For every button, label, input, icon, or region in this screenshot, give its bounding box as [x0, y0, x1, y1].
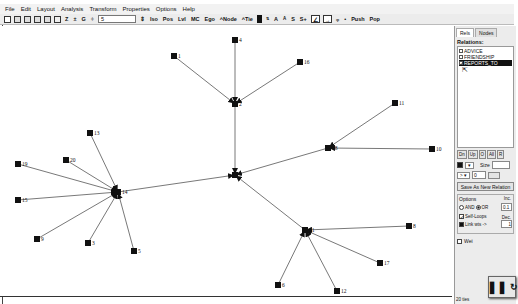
save-as-icon[interactable] — [34, 16, 41, 23]
lvl-button[interactable]: Lvl — [177, 15, 187, 23]
pause-icon[interactable]: ❚❚ — [487, 280, 507, 294]
dec-input[interactable]: 1 — [501, 220, 512, 228]
menu-help[interactable]: Help — [183, 6, 195, 12]
graph-edge — [328, 148, 432, 149]
menu-properties[interactable]: Properties — [123, 6, 150, 12]
tab-nodes[interactable]: Nodes — [475, 28, 497, 37]
inc-label: Inc. — [504, 196, 511, 201]
graph-node[interactable] — [406, 223, 412, 229]
o-button[interactable]: O — [479, 150, 487, 159]
iso-button[interactable]: Iso — [149, 15, 159, 23]
graph-node[interactable] — [302, 227, 308, 233]
pop-button[interactable]: Pop — [369, 15, 381, 23]
menu-file[interactable]: File — [5, 6, 15, 12]
graph-node[interactable] — [87, 130, 93, 136]
self-loops-checkbox[interactable]: ✓ — [459, 214, 464, 219]
open-icon[interactable] — [14, 16, 21, 23]
spin-input[interactable]: 5 — [98, 15, 136, 23]
all-button[interactable]: All — [487, 150, 496, 159]
graph-node[interactable] — [232, 172, 238, 178]
graph-edge — [235, 175, 305, 230]
graph-node[interactable] — [63, 157, 69, 163]
arrow-icon[interactable]: → — [323, 15, 333, 23]
options-group: Options Inc. AND OR 0.1 Dec. ✓ Self-Loop… — [457, 194, 514, 234]
up-button[interactable]: Up — [468, 150, 478, 159]
font-down-button[interactable]: A — [282, 15, 287, 23]
ego-button[interactable]: Ego — [203, 15, 215, 23]
graph-node[interactable] — [171, 53, 177, 59]
graph-node[interactable] — [15, 197, 21, 203]
size-down-button[interactable]: S — [290, 15, 296, 23]
graph-node[interactable] — [232, 37, 238, 43]
relations-list[interactable]: ADVICE FRIENDSHIP ✓ REPORTS_TO ⇱ — [457, 46, 514, 148]
graph-node[interactable] — [115, 189, 121, 195]
save-as-new-relation-button[interactable]: Save As New Relation — [457, 182, 514, 191]
graph-node[interactable] — [15, 161, 21, 167]
edge-weight-icon[interactable]: ⩦ — [335, 15, 340, 23]
network-canvas[interactable]: 141621118107132019141593521817612 — [1, 26, 453, 296]
save-icon[interactable] — [24, 16, 31, 23]
weights-row: Wei — [457, 238, 514, 244]
or-radio[interactable] — [476, 205, 481, 210]
mc-button[interactable]: MC — [190, 15, 201, 23]
graph-node[interactable] — [297, 59, 303, 65]
z-icon[interactable]: Z — [64, 15, 69, 23]
push-button[interactable]: Push — [350, 15, 365, 23]
r-button[interactable]: R — [497, 150, 504, 159]
size-up-button[interactable]: S+ — [299, 15, 308, 23]
and-radio[interactable] — [459, 205, 464, 210]
tab-rels[interactable]: Rels — [456, 28, 474, 37]
relation-buttons: Dn Up O All R — [457, 150, 514, 159]
node-label: 20 — [70, 157, 76, 163]
menu-options[interactable]: Options — [156, 6, 177, 12]
menu-analysis[interactable]: Analysis — [61, 6, 83, 12]
pos-button[interactable]: Pos — [162, 15, 174, 23]
down-button[interactable]: Dn — [457, 150, 467, 159]
menu-transform[interactable]: Transform — [89, 6, 116, 12]
graph-node[interactable] — [131, 248, 137, 254]
dot-icon[interactable]: • — [343, 15, 347, 23]
weights-checkbox[interactable] — [457, 239, 462, 244]
graph-node[interactable] — [275, 282, 281, 288]
graph-node[interactable] — [325, 145, 331, 151]
graph-node[interactable] — [377, 260, 383, 266]
link-wts-checkbox[interactable] — [459, 222, 464, 227]
g-icon[interactable]: G — [80, 15, 86, 23]
relation-label: REPORTS_TO — [464, 60, 498, 66]
network-graph[interactable]: 141621118107132019141593521817612 — [1, 26, 453, 296]
font-up-button[interactable]: A — [273, 15, 279, 23]
graph-icon[interactable] — [54, 16, 61, 23]
filter-icon[interactable]: ǂ — [90, 15, 95, 23]
label-size-icon[interactable]: ⇅ — [265, 15, 270, 23]
graph-node[interactable] — [85, 240, 91, 246]
grid-icon[interactable] — [44, 16, 51, 23]
relation-checkbox[interactable]: ✓ — [459, 61, 463, 65]
color-dropdown[interactable]: ▾ — [465, 162, 474, 169]
relation-checkbox[interactable] — [459, 49, 463, 53]
inc-input[interactable]: 0.1 — [501, 203, 512, 211]
toolbar: Z ± G ǂ 5 ⇕ Iso Pos Lvl MC Ego ^Node ^Ti… — [0, 14, 514, 25]
line-value-input[interactable]: 0 — [472, 171, 486, 179]
graph-node[interactable] — [392, 100, 398, 106]
graph-node[interactable] — [34, 236, 40, 242]
tie-button[interactable]: ^Tie — [241, 15, 254, 23]
line-style-dropdown[interactable]: > ▾ — [457, 172, 470, 179]
size-input[interactable] — [492, 161, 510, 169]
menu-layout[interactable]: Layout — [37, 6, 55, 12]
node-label: 15 — [22, 197, 28, 203]
apply-button[interactable] — [488, 172, 500, 179]
t-icon[interactable]: ± — [72, 15, 77, 23]
draw-edge-icon[interactable]: ∠ — [311, 15, 320, 23]
graph-node[interactable] — [334, 288, 340, 294]
node-button[interactable]: ^Node — [219, 15, 238, 23]
graph-node[interactable] — [429, 146, 435, 152]
relation-checkbox[interactable] — [459, 55, 463, 59]
graph-node[interactable] — [232, 101, 238, 107]
color-swatch[interactable] — [457, 162, 463, 168]
graph-edge — [174, 56, 235, 104]
refresh-icon[interactable]: ↻ — [510, 282, 518, 292]
menu-edit[interactable]: Edit — [21, 6, 31, 12]
new-file-icon[interactable] — [4, 16, 11, 23]
node-shape-icon[interactable] — [257, 15, 262, 23]
spin-arrows-icon[interactable]: ⇕ — [139, 15, 146, 23]
